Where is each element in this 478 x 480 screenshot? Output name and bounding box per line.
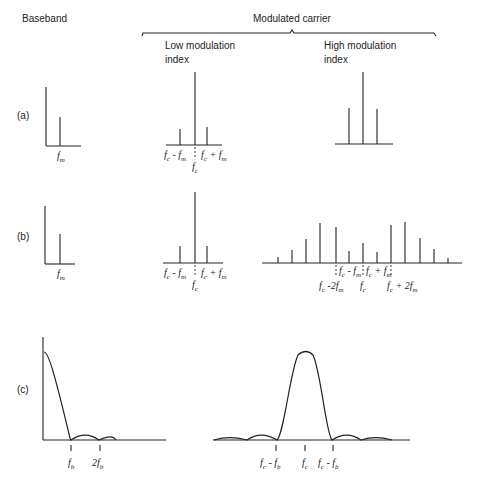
fc-plus-2fm-label: fc + 2fm	[387, 280, 417, 294]
fc-minus-fb-label-right: fc - fb	[318, 457, 339, 471]
fb-label: fb	[68, 457, 75, 471]
baseband-spectrum-curve	[44, 352, 116, 440]
fm-label: fm	[57, 150, 65, 164]
high-index-heading-line2: index	[324, 54, 348, 65]
lower-sideband-label: fc - fm	[164, 267, 186, 281]
modulation-spectra-figure: Baseband Modulated carrier Low modulatio…	[0, 0, 478, 480]
row-b-high-index-spectrum: fc - fmfc + fmfc -2fmfcfc + 2fm	[262, 222, 462, 294]
carrier-label: fc	[192, 161, 199, 175]
fc-minus-fb-label-left: fc - fb	[260, 457, 281, 471]
lower-sideband-label: fc - fm	[339, 265, 361, 279]
upper-sideband-label: fc + fm	[201, 267, 226, 281]
row-label-a: (a)	[17, 110, 29, 121]
row-c-modulated-spectrum: fc - fbfcfc - fb	[213, 352, 410, 472]
row-a-high-index-spectrum	[335, 72, 393, 144]
fc-label: fc	[302, 457, 309, 471]
high-index-heading-line1: High modulation	[324, 40, 396, 51]
upper-sideband-label: fc + fm	[366, 265, 391, 279]
carrier-label: fc	[360, 280, 367, 294]
lower-sideband-label: fc - fm	[164, 149, 186, 163]
row-b-low-index-spectrum: fc - fmfc + fmfc	[163, 192, 226, 293]
row-label-b: (b)	[17, 231, 29, 242]
fm-label: fm	[57, 268, 65, 282]
baseband-heading: Baseband	[22, 13, 67, 24]
2fb-label: 2fb	[92, 457, 104, 471]
fc-minus-2fm-label: fc -2fm	[319, 280, 344, 294]
row-a-baseband-spectrum: fm	[46, 87, 81, 164]
carrier-label: fc	[192, 279, 199, 293]
row-label-c: (c)	[17, 384, 29, 395]
modulated-carrier-brace	[142, 30, 436, 36]
row-a-low-index-spectrum: fc - fmfc + fmfc	[164, 72, 226, 175]
low-index-heading-line1: Low modulation	[165, 40, 235, 51]
row-c-baseband-spectrum: fb2fb	[43, 337, 166, 471]
low-index-heading-line2: index	[165, 54, 189, 65]
modulated-carrier-heading: Modulated carrier	[253, 13, 331, 24]
modulated-spectrum-curve	[214, 352, 392, 441]
upper-sideband-label: fc + fm	[201, 149, 226, 163]
row-b-baseband-spectrum: fm	[45, 206, 75, 282]
